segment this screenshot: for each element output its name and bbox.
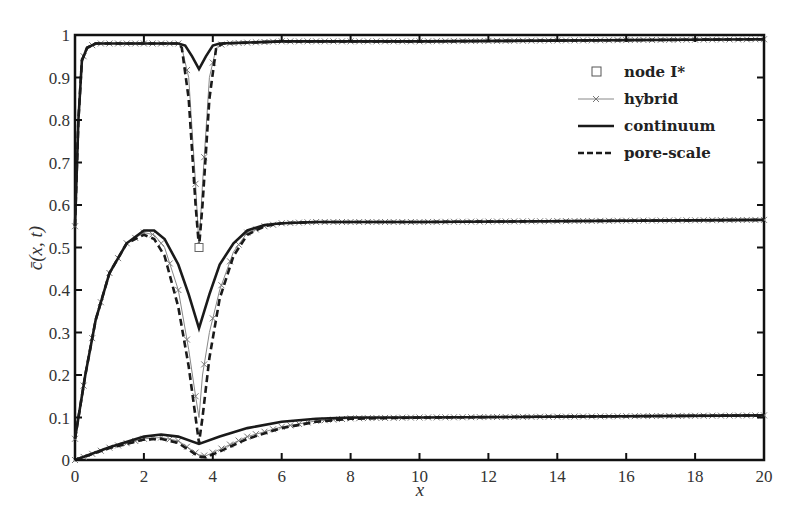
- x-tick-label: 12: [480, 467, 497, 486]
- y-tick-label: 0.7: [49, 154, 71, 173]
- y-tick-label: 0.9: [49, 69, 70, 88]
- x-tick-label: 20: [756, 467, 773, 486]
- series-hybrid: [75, 220, 764, 439]
- x-tick-label: 2: [140, 467, 149, 486]
- legend-label: continuum: [624, 117, 715, 135]
- y-tick-label: 0.2: [49, 366, 70, 385]
- legend-label: pore-scale: [624, 144, 711, 162]
- x-tick-label: 18: [687, 467, 704, 486]
- x-tick-label: 8: [346, 467, 355, 486]
- y-tick-label: 0.6: [49, 196, 70, 215]
- y-tick-label: 1: [62, 26, 71, 45]
- legend-item: pore-scale: [578, 144, 711, 162]
- legend-item: continuum: [578, 117, 715, 135]
- y-tick-label: 0.8: [49, 111, 70, 130]
- legend-item: hybrid: [578, 90, 679, 108]
- x-tick-label: 4: [209, 467, 218, 486]
- legend-label: node I*: [624, 63, 685, 81]
- x-tick-label: 6: [277, 467, 286, 486]
- x-tick-label: 14: [549, 467, 567, 486]
- x-marker: [236, 242, 242, 248]
- y-tick-label: 0.4: [49, 281, 71, 300]
- x-tick-label: 0: [71, 467, 80, 486]
- line-chart: 0246810121416182000.10.20.30.40.50.60.70…: [0, 0, 795, 513]
- y-axis-label: c̄(x, t): [25, 226, 47, 270]
- y-tick-label: 0.1: [49, 409, 70, 428]
- series-pore-scale: [75, 220, 764, 443]
- x-axis-label: x: [415, 479, 425, 500]
- x-tick-label: 16: [618, 467, 635, 486]
- node-marker: [195, 244, 203, 252]
- legend: node I*hybridcontinuumpore-scale: [578, 63, 715, 162]
- series-continuum: [75, 220, 764, 439]
- y-tick-label: 0.5: [49, 239, 70, 258]
- y-tick-label: 0.3: [49, 324, 70, 343]
- y-tick-label: 0: [62, 451, 71, 470]
- square-icon: [592, 67, 601, 76]
- legend-label: hybrid: [624, 90, 679, 108]
- legend-item: node I*: [592, 63, 685, 81]
